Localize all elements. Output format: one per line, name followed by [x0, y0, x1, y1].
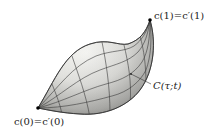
end-point-label: c(1)=c′(1) — [154, 10, 204, 21]
surface-label-arrowhead — [130, 73, 132, 75]
surface-label: C(τ;t) — [153, 80, 181, 91]
start-point-label: c(0)=c′(0) — [14, 116, 64, 127]
start-point-marker — [36, 106, 40, 110]
end-point-marker — [148, 18, 152, 22]
homotopy-diagram: c(1)=c′(1) c(0)=c′(0) C(τ;t) — [0, 0, 216, 137]
